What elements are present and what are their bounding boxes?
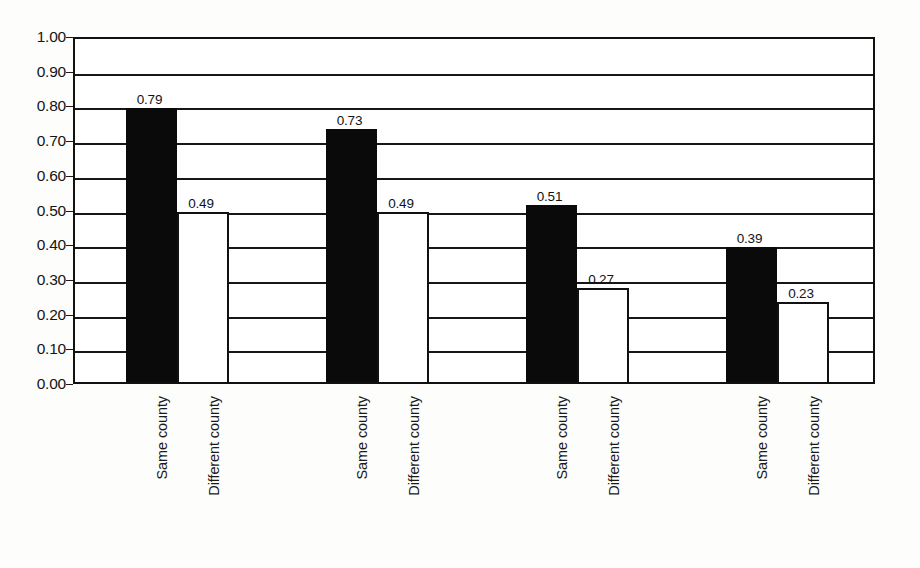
x-axis-label: Different county bbox=[607, 396, 622, 496]
x-axis-label: Different county bbox=[207, 396, 222, 496]
bar bbox=[526, 205, 577, 382]
x-axis-label: Same county bbox=[355, 396, 370, 480]
y-tick-label: 0.60 bbox=[6, 168, 66, 184]
bar bbox=[177, 212, 229, 382]
bar bbox=[726, 247, 777, 382]
bar-value-label: 0.51 bbox=[537, 190, 562, 204]
y-tick-label: 0.90 bbox=[6, 64, 66, 80]
bar bbox=[377, 212, 429, 382]
y-axis: 1.000.900.800.700.600.500.400.300.200.10… bbox=[0, 0, 66, 568]
bar-value-label: 0.49 bbox=[388, 197, 413, 211]
y-tick-mark bbox=[66, 384, 73, 385]
bar-value-label: 0.39 bbox=[737, 232, 762, 246]
x-axis-label: Same county bbox=[555, 396, 570, 480]
bar bbox=[326, 129, 377, 382]
bar-chart: 1.000.900.800.700.600.500.400.300.200.10… bbox=[0, 0, 920, 568]
y-tick-mark bbox=[66, 72, 73, 73]
y-tick-label: 0.70 bbox=[6, 133, 66, 149]
x-axis-label: Different county bbox=[407, 396, 422, 496]
gridline bbox=[75, 178, 873, 180]
y-tick-label: 0.10 bbox=[6, 341, 66, 357]
bar-value-label: 0.73 bbox=[337, 114, 362, 128]
y-tick-mark bbox=[66, 245, 73, 246]
x-axis-label: Different county bbox=[807, 396, 822, 496]
y-tick-label: 0.30 bbox=[6, 272, 66, 288]
y-tick-mark bbox=[66, 176, 73, 177]
y-tick-mark bbox=[66, 141, 73, 142]
y-tick-mark bbox=[66, 106, 73, 107]
x-axis-label: Same county bbox=[155, 396, 170, 480]
y-tick-mark bbox=[66, 211, 73, 212]
y-tick-mark bbox=[66, 37, 73, 38]
bar-value-label: 0.49 bbox=[188, 197, 213, 211]
bar-value-label: 0.79 bbox=[137, 93, 162, 107]
y-tick-label: 0.20 bbox=[6, 307, 66, 323]
y-tick-label: 0.50 bbox=[6, 203, 66, 219]
bar-value-label: 0.23 bbox=[788, 287, 813, 301]
y-tick-label: 0.80 bbox=[6, 98, 66, 114]
gridline bbox=[75, 143, 873, 145]
bar bbox=[777, 302, 829, 382]
gridline bbox=[75, 74, 873, 76]
y-tick-mark bbox=[66, 315, 73, 316]
y-tick-label: 1.00 bbox=[6, 29, 66, 45]
y-tick-mark bbox=[66, 349, 73, 350]
bar bbox=[577, 288, 629, 382]
y-tick-label: 0.00 bbox=[6, 376, 66, 392]
gridline bbox=[75, 108, 873, 110]
bar bbox=[126, 108, 177, 382]
x-axis-label: Same county bbox=[755, 396, 770, 480]
y-tick-label: 0.40 bbox=[6, 237, 66, 253]
y-tick-mark bbox=[66, 280, 73, 281]
bar-value-label: 0.27 bbox=[588, 273, 613, 287]
